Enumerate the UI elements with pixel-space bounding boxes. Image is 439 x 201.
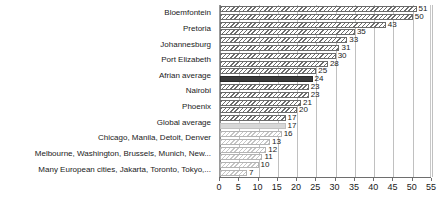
bar-value-label: 35 xyxy=(357,28,366,36)
bar-row: 20 xyxy=(220,107,430,113)
bar-row: 25 xyxy=(220,68,430,74)
x-tick xyxy=(354,178,355,181)
x-tick-label: 55 xyxy=(426,182,436,192)
bar-value-label: 7 xyxy=(249,169,253,177)
category-label: Chicago, Manila, Detoit, Denver xyxy=(98,133,215,142)
x-tick-label: 50 xyxy=(407,182,417,192)
bar-row: 12 xyxy=(220,147,430,153)
bar-value-label: 50 xyxy=(415,13,424,21)
x-tick xyxy=(219,178,220,181)
x-tick xyxy=(335,178,336,181)
x-tick xyxy=(258,178,259,181)
bar-value-label: 33 xyxy=(349,36,358,44)
x-tick xyxy=(431,178,432,181)
bar xyxy=(220,61,328,67)
bar xyxy=(220,76,313,82)
bar xyxy=(220,100,301,106)
bar-row: 50 xyxy=(220,14,430,20)
bar xyxy=(220,92,309,98)
x-tick-label: 10 xyxy=(253,182,263,192)
bar-row: 35 xyxy=(220,29,430,35)
bar xyxy=(220,123,286,129)
x-tick-label: 30 xyxy=(330,182,340,192)
x-tick xyxy=(392,178,393,181)
category-label: Nairobi xyxy=(186,86,215,95)
bar-row: 30 xyxy=(220,53,430,59)
x-tick xyxy=(277,178,278,181)
bar xyxy=(220,147,266,153)
bar-row: 24 xyxy=(220,76,430,82)
bar-row: 21 xyxy=(220,100,430,106)
bar-row: 43 xyxy=(220,22,430,28)
bar-row: 17 xyxy=(220,123,430,129)
bar-row: 51 xyxy=(220,6,430,12)
bar-row: 13 xyxy=(220,139,430,145)
bar-value-label: 16 xyxy=(284,130,293,138)
x-tick-label: 20 xyxy=(291,182,301,192)
bar xyxy=(220,84,309,90)
category-label: Port Elizabeth xyxy=(161,55,215,64)
category-label: Pretoria xyxy=(183,24,215,33)
bar-value-label: 20 xyxy=(299,106,308,114)
x-axis-tick-labels: 0510152025303540455055 xyxy=(219,182,431,196)
category-label: Many European cities, Jakarta, Toronto, … xyxy=(38,165,215,174)
category-axis-labels: BloemfonteinPretoriaJohannesburgPort Eli… xyxy=(0,5,215,177)
bar-row: 11 xyxy=(220,154,430,160)
x-tick-label: 15 xyxy=(272,182,282,192)
category-label: Global average xyxy=(157,118,215,127)
bar xyxy=(220,131,282,137)
x-tick-label: 0 xyxy=(216,182,221,192)
bar-row: 23 xyxy=(220,84,430,90)
bar xyxy=(220,45,339,51)
bar-row: 31 xyxy=(220,45,430,51)
x-tick xyxy=(373,178,374,181)
bar xyxy=(220,6,417,12)
x-tick xyxy=(315,178,316,181)
x-tick xyxy=(238,178,239,181)
bar-row: 23 xyxy=(220,92,430,98)
x-tick-label: 5 xyxy=(236,182,241,192)
category-label: Phoenix xyxy=(182,102,215,111)
category-label: Bloemfontein xyxy=(164,8,215,17)
bar-chart: BloemfonteinPretoriaJohannesburgPort Eli… xyxy=(0,0,439,201)
x-tick xyxy=(412,178,413,181)
bar xyxy=(220,115,286,121)
bar-row: 17 xyxy=(220,115,430,121)
bar-value-label: 28 xyxy=(330,60,339,68)
x-tick-label: 45 xyxy=(387,182,397,192)
x-tick-label: 35 xyxy=(349,182,359,192)
plot-area: 5150433533313028252423232120171716131211… xyxy=(219,5,431,177)
x-tick-label: 25 xyxy=(310,182,320,192)
bar xyxy=(220,107,297,113)
bar xyxy=(220,14,413,20)
bar-row: 33 xyxy=(220,37,430,43)
bar-series: 5150433533313028252423232120171716131211… xyxy=(220,5,430,177)
bar xyxy=(220,29,355,35)
category-label: Melbourne, Washington, Brussels, Munich,… xyxy=(35,149,215,158)
x-tick-label: 40 xyxy=(368,182,378,192)
bar-value-label: 10 xyxy=(261,161,270,169)
bar-row: 7 xyxy=(220,170,430,176)
category-label: Afrian average xyxy=(159,71,215,80)
bar xyxy=(220,53,336,59)
gridline xyxy=(432,5,433,177)
bar-row: 16 xyxy=(220,131,430,137)
bar xyxy=(220,170,247,176)
bar-value-label: 43 xyxy=(388,21,397,29)
x-tick xyxy=(296,178,297,181)
bar xyxy=(220,68,316,74)
bar xyxy=(220,139,270,145)
category-label: Johannesburg xyxy=(160,40,215,49)
bar xyxy=(220,37,347,43)
bar xyxy=(220,154,262,160)
